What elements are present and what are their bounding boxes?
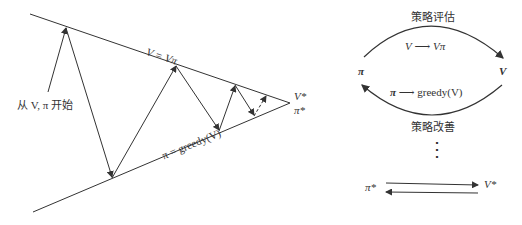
final-v-label: V* xyxy=(484,178,496,190)
improvement-expr: π ⟶ greedy(V) xyxy=(390,86,463,99)
expr-greedy: greedy(V) xyxy=(417,86,462,98)
start-label: 从 V, π 开始 xyxy=(17,96,73,112)
final-arrow-left xyxy=(386,192,478,193)
ellipsis: ⋮ xyxy=(427,140,447,158)
pi-node: π xyxy=(358,65,364,77)
final-pi-label: π* xyxy=(365,181,376,193)
expr-arrow2: ⟶ xyxy=(399,86,415,98)
expr-pi: π xyxy=(390,86,396,98)
v-node: V xyxy=(499,65,506,77)
improvement-title: 策略改善 xyxy=(411,118,455,134)
evaluation-expr: V ⟶ Vπ xyxy=(405,40,445,53)
final-arrow-right xyxy=(386,183,478,185)
gpi-diagram-graphics xyxy=(0,0,522,225)
expr-vpi: Vπ xyxy=(433,40,445,52)
lower-line xyxy=(33,103,290,212)
evaluation-title: 策略评估 xyxy=(411,8,455,24)
converge-v-label: V* xyxy=(294,90,306,102)
converge-pi-label: π* xyxy=(294,104,305,116)
expr-arrow: ⟶ xyxy=(414,40,430,52)
expr-v: V xyxy=(405,40,412,52)
